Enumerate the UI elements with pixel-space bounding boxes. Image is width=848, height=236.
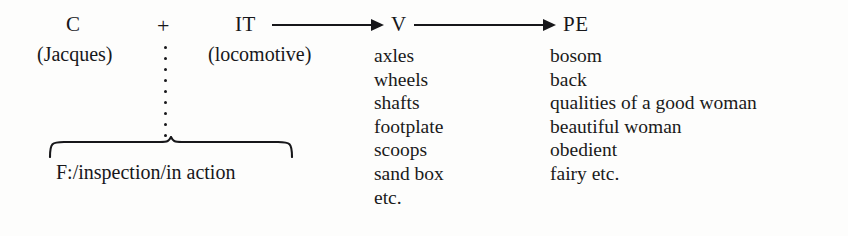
list-item: sand box bbox=[374, 162, 444, 186]
column-v-items: axleswheelsshaftsfootplatescoopssand box… bbox=[374, 44, 444, 209]
node-c-label: C bbox=[66, 14, 81, 35]
list-item: fairy etc. bbox=[550, 162, 757, 186]
list-item: shafts bbox=[374, 91, 444, 115]
arrow-shaft bbox=[272, 24, 372, 26]
arrow-shaft bbox=[414, 24, 544, 26]
list-item: footplate bbox=[374, 115, 444, 139]
list-item: bosom bbox=[550, 44, 757, 68]
horizontal-curly-brace bbox=[48, 136, 294, 158]
arrow-head-icon bbox=[371, 19, 384, 31]
column-pe-items: bosombackqualities of a good womanbeauti… bbox=[550, 44, 757, 186]
arrow-it-to-v bbox=[272, 19, 384, 31]
list-item: obedient bbox=[550, 138, 757, 162]
list-item: axles bbox=[374, 44, 444, 68]
dotted-line-dot bbox=[164, 57, 167, 60]
list-item: etc. bbox=[374, 186, 444, 210]
brace-caption: F:/inspection/in action bbox=[56, 162, 235, 182]
node-v-label: V bbox=[391, 14, 407, 35]
list-item: back bbox=[550, 68, 757, 92]
node-pe-label: PE bbox=[563, 14, 589, 35]
dotted-line-dot bbox=[164, 46, 167, 49]
dotted-line-dot bbox=[164, 123, 167, 126]
plus-operator: + bbox=[157, 15, 170, 37]
list-item: qualities of a good woman bbox=[550, 91, 757, 115]
dotted-line-dot bbox=[164, 112, 167, 115]
vertical-dotted-connector bbox=[164, 44, 167, 142]
semiotic-diagram: C + IT V PE (Jacques) (locomotive) F:/in… bbox=[0, 0, 848, 236]
dotted-line-dot bbox=[164, 90, 167, 93]
dotted-line-dot bbox=[164, 79, 167, 82]
brace-icon bbox=[48, 136, 294, 158]
node-it-label: IT bbox=[235, 14, 256, 35]
gloss-locomotive: (locomotive) bbox=[208, 44, 311, 64]
list-item: scoops bbox=[374, 138, 444, 162]
arrow-head-icon bbox=[543, 19, 556, 31]
dotted-line-dot bbox=[164, 101, 167, 104]
list-item: beautiful woman bbox=[550, 115, 757, 139]
dotted-line-dot bbox=[164, 68, 167, 71]
arrow-v-to-pe bbox=[414, 19, 556, 31]
list-item: wheels bbox=[374, 68, 444, 92]
gloss-jacques: (Jacques) bbox=[37, 44, 113, 64]
